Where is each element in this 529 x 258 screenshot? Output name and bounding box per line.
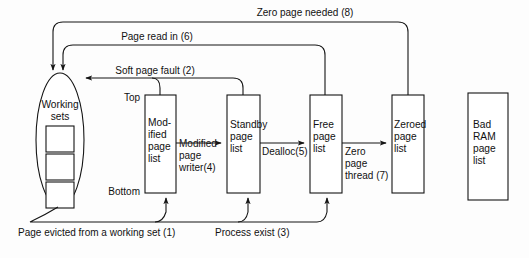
standby-page-list-label-2: page: [230, 131, 253, 142]
free-page-list-label-2: page: [313, 131, 336, 142]
edge-zero-page-thread-label-1: Zero: [345, 146, 366, 157]
diagram-canvas: Working sets Mod- ified page list Standb…: [0, 0, 529, 258]
edge-process-exist-label: Process exist (3): [215, 227, 289, 238]
edge-page-evicted-label: Page evicted from a working set (1): [18, 227, 175, 238]
working-set-square-1: [46, 126, 74, 152]
edge-zero-page-needed: [53, 22, 408, 95]
modified-page-list-label-3: page: [148, 141, 171, 152]
page-state-diagram: Working sets Mod- ified page list Standb…: [0, 0, 529, 258]
bad-ram-page-list-label-1: Bad: [473, 119, 491, 130]
top-label: Top: [124, 92, 141, 103]
edge-soft-page-fault-branch: [152, 78, 160, 95]
standby-page-list-label-3: list: [230, 143, 243, 154]
edge-dealloc-label: Dealloc(5): [262, 146, 308, 157]
zeroed-page-list-label-3: list: [394, 143, 407, 154]
modified-page-list-label-4: list: [148, 153, 161, 164]
bad-ram-page-list-label-2: RAM: [473, 131, 496, 142]
edge-zero-page-thread-label-2: page: [345, 158, 368, 169]
modified-page-list-label-2: ified: [148, 129, 167, 140]
free-page-list-label-1: Free: [313, 119, 334, 130]
edge-page-read-in-label: Page read in (6): [121, 31, 193, 42]
working-sets-label-line2: sets: [51, 111, 70, 122]
edge-process-exist-to-standby: [155, 198, 248, 222]
edge-modified-page-writer-label-1: Modified: [179, 138, 217, 149]
edge-zero-page-needed-label: Zero page needed (8): [257, 7, 354, 18]
zeroed-page-list-label-1: Zeroed: [394, 119, 427, 130]
zeroed-page-list-label-2: page: [394, 131, 417, 142]
bad-ram-page-list-label-3: page: [473, 143, 496, 154]
edge-zero-page-thread-label-3: thread (7): [345, 170, 388, 181]
edge-modified-page-writer-label-3: writer(4): [178, 162, 216, 173]
working-set-square-2: [46, 154, 74, 180]
edge-soft-page-fault: [86, 78, 243, 95]
working-sets-label-line1: Working: [41, 99, 79, 110]
standby-page-list-label-1: Standby: [230, 119, 268, 130]
free-page-list-label-3: list: [313, 143, 326, 154]
edge-soft-page-fault-label: Soft page fault (2): [115, 65, 195, 76]
edge-modified-page-writer-label-2: page: [179, 150, 202, 161]
working-set-square-3: [46, 182, 74, 208]
bad-ram-page-list-label-4: list: [473, 155, 486, 166]
modified-page-list-label-1: Mod-: [148, 117, 171, 128]
bottom-label: Bottom: [108, 186, 140, 197]
edge-process-exist-to-free: [238, 198, 327, 222]
